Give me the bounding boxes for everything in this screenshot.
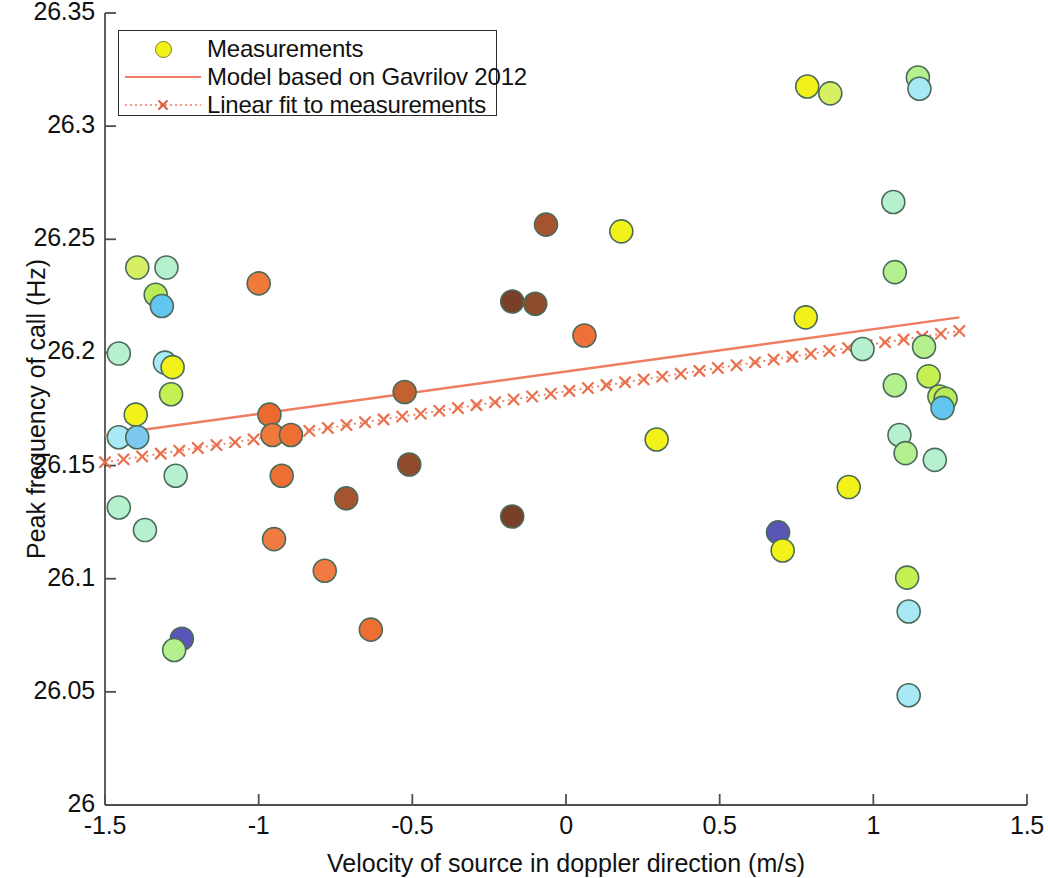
measurement-point: [359, 618, 382, 641]
y-tick-label: 26.1: [47, 563, 95, 592]
legend-label: Linear fit to measurements: [207, 91, 486, 119]
measurement-point: [247, 272, 270, 295]
legend-item-measurements: Measurements: [119, 35, 496, 63]
measurement-point: [610, 220, 633, 243]
y-tick-label: 26.2: [47, 336, 95, 365]
x-tick-label: 1.5: [987, 811, 1048, 840]
measurement-point: [771, 539, 794, 562]
y-tick-label: 26.25: [33, 223, 95, 252]
measurement-point: [161, 356, 184, 379]
measurement-point: [794, 306, 817, 329]
y-tick-label: 26.3: [47, 110, 95, 139]
measurement-point: [150, 295, 173, 318]
x-tick-label: 0: [526, 811, 606, 840]
y-tick-label: 26.35: [33, 0, 95, 26]
measurement-point: [837, 476, 860, 499]
legend-label: Measurements: [207, 35, 363, 63]
measurement-point: [398, 453, 421, 476]
x-tick-label: 1: [833, 811, 913, 840]
measurement-point: [897, 684, 920, 707]
measurement-point: [819, 82, 842, 105]
measurement-point: [796, 75, 819, 98]
measurement-point: [126, 256, 149, 279]
y-tick-label: 26.15: [33, 450, 95, 479]
measurement-point: [107, 342, 130, 365]
model-line-icon: [119, 71, 207, 83]
measurement-point: [882, 190, 905, 213]
measurement-point: [897, 600, 920, 623]
measurement-point: [501, 505, 524, 528]
measurement-point: [313, 559, 336, 582]
measurement-point: [258, 403, 281, 426]
measurement-point: [279, 424, 302, 447]
measurement-point: [133, 519, 156, 542]
linear-fit-markers: [100, 326, 964, 467]
measurement-point: [645, 428, 668, 451]
measurements-marker-icon: [119, 41, 207, 58]
measurement-point: [535, 213, 558, 236]
linear-fit-line-icon: [119, 98, 207, 112]
x-tick-label: -1: [219, 811, 299, 840]
y-axis-label: Peak frequency of call (Hz): [22, 259, 51, 559]
legend-label: Model based on Gavrilov 2012: [207, 63, 527, 91]
measurement-point: [393, 381, 416, 404]
measurement-point: [573, 324, 596, 347]
measurement-point: [883, 261, 906, 284]
x-tick-label: 0.5: [680, 811, 760, 840]
model-line: [105, 317, 959, 435]
measurement-point: [923, 448, 946, 471]
measurement-point: [931, 396, 954, 419]
measurement-point: [524, 292, 547, 315]
measurement-point: [270, 464, 293, 487]
x-axis-label: Velocity of source in doppler direction …: [266, 849, 866, 878]
x-tick-label: -0.5: [372, 811, 452, 840]
measurement-point: [107, 496, 130, 519]
legend: Measurements Model based on Gavrilov 201…: [118, 30, 497, 116]
measurement-point: [335, 487, 358, 510]
measurement-point: [163, 638, 186, 661]
measurement-points: [107, 66, 957, 707]
measurement-point: [164, 464, 187, 487]
measurement-point: [913, 335, 936, 358]
measurement-point: [851, 338, 874, 361]
measurement-point: [155, 256, 178, 279]
legend-item-linear-fit: Linear fit to measurements: [119, 91, 496, 119]
measurement-point: [896, 566, 919, 589]
x-tick-label: -1.5: [65, 811, 145, 840]
measurement-point: [160, 383, 183, 406]
measurement-point: [501, 290, 524, 313]
legend-item-model: Model based on Gavrilov 2012: [119, 63, 496, 91]
measurement-point: [917, 365, 940, 388]
measurement-point: [908, 77, 931, 100]
y-tick-label: 26.05: [33, 676, 95, 705]
measurement-point: [126, 426, 149, 449]
measurement-point: [894, 442, 917, 465]
measurement-point: [263, 528, 286, 551]
measurement-point: [124, 403, 147, 426]
measurement-point: [883, 374, 906, 397]
